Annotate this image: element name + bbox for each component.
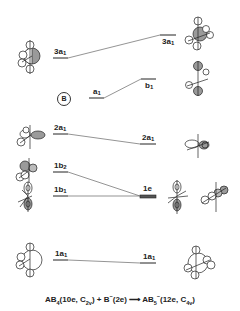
orbital-left-1b1-icon [18, 182, 32, 212]
reactant1: AB4(10e, C2v) [45, 295, 95, 304]
label-right-b1: b1 [145, 82, 153, 90]
label-left-a1: a1 [93, 88, 101, 96]
label-left-1b1: 1b1 [54, 186, 67, 194]
fragment-b-label: B [57, 92, 71, 106]
correlation-1b2-1e [68, 172, 140, 196]
label-right-1e: 1e [143, 185, 152, 193]
orbital-left-1b2-icon [16, 158, 37, 184]
orbital-right-b1-icon [186, 61, 210, 96]
orbital-right-1e-a-icon [168, 180, 188, 214]
mo-diagram-canvas [0, 0, 240, 311]
label-right-2a1: 2a1 [142, 134, 154, 142]
correlation-1a1-1a1 [68, 260, 140, 263]
correlation-a1-b1 [104, 79, 141, 98]
orbital-right-1a1-icon [184, 246, 215, 279]
label-left-3a1: 3a1 [54, 48, 66, 56]
orbital-right-1e-b-icon [201, 182, 228, 212]
orbital-right-3a1-icon [185, 17, 214, 50]
reactant2: B−(2e) [104, 295, 127, 304]
label-left-2a1: 2a1 [54, 124, 66, 132]
level-right-1e [140, 195, 156, 198]
product: AB5−(12e, C4v) [142, 295, 195, 304]
orbital-left-2a1-icon [17, 125, 45, 149]
orbital-left-1a1-icon [16, 243, 42, 277]
label-left-1a1: 1a1 [55, 250, 67, 258]
label-right-1a1: 1a1 [143, 253, 155, 261]
reaction-arrow: ⟶ [129, 295, 140, 304]
plus-sign: + [97, 295, 102, 304]
label-left-1b2: 1b2 [54, 162, 67, 170]
correlation-3a1-3a1 [68, 35, 160, 58]
reaction-equation: AB4(10e, C2v) + B−(2e) ⟶ AB5−(12e, C4v) [0, 293, 240, 305]
orbital-left-3a1-icon [18, 40, 40, 74]
correlation-2a1-2a1 [68, 134, 140, 144]
label-right-3a1: 3a1 [162, 38, 174, 46]
orbital-right-2a1-icon [185, 134, 209, 158]
